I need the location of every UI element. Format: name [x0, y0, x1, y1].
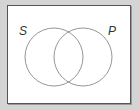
venn-diagram: S P — [0, 0, 139, 109]
label-p: P — [108, 24, 116, 38]
label-s: S — [19, 24, 27, 38]
